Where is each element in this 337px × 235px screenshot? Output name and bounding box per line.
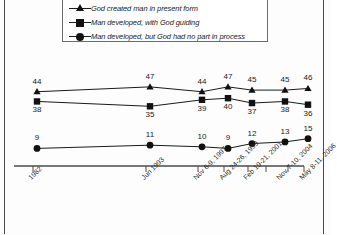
data-label: 47	[224, 72, 233, 81]
data-point-marker[interactable]	[146, 83, 153, 89]
data-label: 47	[146, 72, 155, 81]
data-point-marker[interactable]	[199, 143, 206, 150]
circle-marker-icon	[69, 31, 91, 42]
data-point-marker[interactable]	[225, 95, 231, 101]
data-label: 12	[248, 129, 257, 138]
series-line	[37, 87, 308, 92]
data-label: 35	[146, 110, 155, 119]
series-line	[37, 98, 308, 106]
data-label: 44	[198, 77, 207, 86]
legend-label-guided: Man developed, with God guiding	[91, 18, 199, 27]
chart-legend: God created man in present form Man deve…	[62, 0, 268, 42]
data-point-marker[interactable]	[147, 142, 154, 149]
data-point-marker[interactable]	[34, 98, 40, 104]
data-point-marker[interactable]	[147, 103, 153, 109]
data-point-marker[interactable]	[199, 97, 205, 103]
data-point-marker[interactable]	[224, 83, 231, 89]
square-marker-icon	[69, 17, 91, 28]
data-label: 45	[248, 75, 257, 84]
data-point-marker[interactable]	[305, 101, 311, 107]
data-point-marker[interactable]	[249, 100, 255, 106]
data-label: 45	[281, 75, 290, 84]
legend-item-created[interactable]: God created man in present form	[69, 2, 267, 15]
data-label: 39	[198, 104, 207, 113]
data-label: 38	[281, 105, 290, 114]
data-label: 15	[304, 124, 313, 133]
data-label: 9	[226, 133, 230, 142]
data-label: 38	[33, 105, 42, 114]
series-line	[37, 139, 308, 149]
triangle-marker-icon	[69, 3, 91, 14]
data-label: 44	[33, 77, 42, 86]
data-label: 40	[224, 102, 233, 111]
data-point-marker[interactable]	[34, 145, 41, 152]
data-label: 10	[198, 132, 207, 141]
data-label: 36	[304, 109, 313, 118]
data-label: 11	[146, 130, 154, 139]
legend-item-guided[interactable]: Man developed, with God guiding	[69, 16, 267, 29]
data-label: 9	[35, 133, 39, 142]
legend-label-created: God created man in present form	[91, 4, 198, 13]
data-label: 37	[248, 107, 257, 116]
data-point-marker[interactable]	[304, 85, 311, 91]
data-point-marker[interactable]	[282, 98, 288, 104]
legend-label-nopart: Man developed, but God had no part in pr…	[91, 32, 245, 41]
legend-item-nopart[interactable]: Man developed, but God had no part in pr…	[69, 30, 267, 43]
data-label: 13	[281, 127, 290, 136]
data-label: 46	[304, 73, 313, 82]
